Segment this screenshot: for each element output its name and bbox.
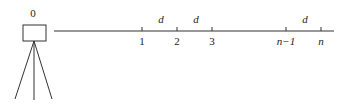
tick-marks (142, 27, 321, 31)
diagram-canvas: 0 d d d 1 2 3 n−1 n (0, 0, 338, 109)
spacing-label-d: d (193, 13, 199, 25)
spacing-label-d: d (158, 13, 164, 25)
instrument-box-icon (23, 25, 46, 41)
point-label-n-minus-1: n−1 (277, 35, 295, 47)
spacing-label-d: d (302, 13, 308, 25)
point-label-2: 2 (174, 35, 180, 47)
diagram-svg: 0 d d d 1 2 3 n−1 n (0, 0, 338, 109)
point-label-1: 1 (139, 35, 145, 47)
tripod-icon (15, 41, 52, 100)
point-label-3: 3 (209, 35, 215, 47)
instrument-label: 0 (30, 7, 36, 19)
point-label-n: n (318, 35, 324, 47)
